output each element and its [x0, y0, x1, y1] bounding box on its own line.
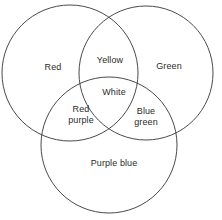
red-circle — [2, 5, 138, 141]
venn-diagram: Red Green Yellow White Red purple Blue g… — [0, 0, 222, 220]
green-circle — [79, 6, 213, 140]
venn-circles-group — [0, 0, 222, 220]
purple-blue-circle — [41, 77, 177, 213]
